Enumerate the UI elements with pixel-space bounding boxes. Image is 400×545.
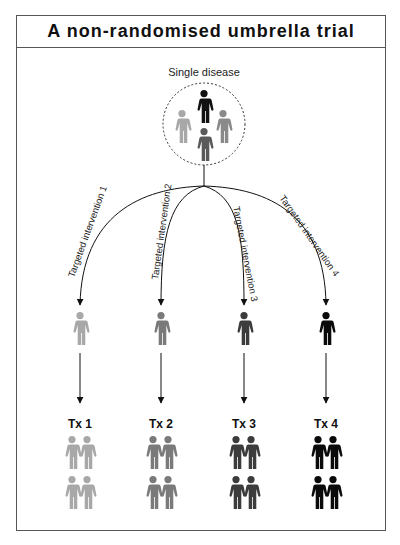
person-icon — [230, 436, 246, 469]
person-icon — [176, 110, 192, 143]
person-icon — [162, 436, 178, 469]
treatment-label: Tx 4 — [314, 417, 338, 431]
treatment-label: Tx 1 — [68, 417, 92, 431]
person-icon — [238, 312, 254, 345]
branch-arrow-3 — [204, 186, 244, 305]
person-icon — [327, 436, 343, 469]
person-icon — [66, 436, 82, 469]
person-icon — [81, 476, 97, 509]
source-figures — [176, 90, 233, 161]
arm-2: Tx 2 — [147, 312, 178, 509]
arm-3: Tx 3 — [230, 312, 261, 509]
branch-arrow-4 — [204, 186, 326, 305]
person-icon — [245, 436, 261, 469]
person-icon — [81, 436, 97, 469]
arm-4: Tx 4 — [312, 312, 343, 509]
person-icon — [327, 476, 343, 509]
treatment-label: Tx 2 — [149, 417, 173, 431]
intervention-label-2: Targeted intervention 2 — [149, 183, 173, 280]
person-icon — [230, 476, 246, 509]
person-icon — [217, 110, 233, 143]
intervention-label-3: Targeted intervention 3 — [231, 205, 260, 302]
person-icon — [74, 312, 90, 345]
treatment-group — [230, 436, 261, 509]
person-icon — [162, 476, 178, 509]
intervention-label-4: Targeted intervention 4 — [277, 193, 341, 278]
person-icon — [147, 476, 163, 509]
person-icon — [320, 312, 336, 345]
person-icon — [66, 476, 82, 509]
treatment-group — [66, 436, 97, 509]
intervention-label-1: Targeted intervention 1 — [66, 184, 109, 279]
treatment-group — [147, 436, 178, 509]
person-icon — [312, 476, 328, 509]
arm-1: Tx 1 — [66, 312, 97, 509]
treatment-group — [312, 436, 343, 509]
umbrella-trial-diagram: Single disease Targeted intervention 1 T… — [0, 0, 400, 545]
person-icon — [312, 436, 328, 469]
person-icon — [198, 128, 214, 161]
person-icon — [198, 90, 214, 123]
person-icon — [147, 436, 163, 469]
person-icon — [155, 312, 171, 345]
treatment-label: Tx 3 — [232, 417, 256, 431]
person-icon — [245, 476, 261, 509]
source-group-label: Single disease — [168, 66, 240, 78]
